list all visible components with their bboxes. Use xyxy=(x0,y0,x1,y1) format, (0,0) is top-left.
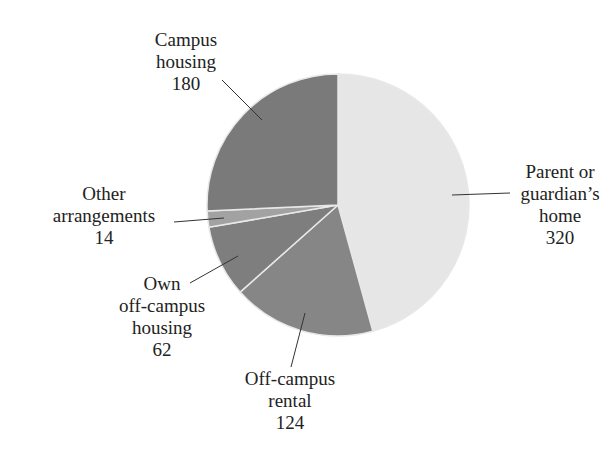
slice-label: Off-campusrental124 xyxy=(245,368,335,433)
slice-label: Campushousing180 xyxy=(155,29,217,94)
pie-slice-campus-housing xyxy=(207,74,338,211)
leader-line xyxy=(222,80,262,120)
slice-label: Parent orguardian’shome320 xyxy=(520,161,599,248)
slice-label: Ownoff-campushousing62 xyxy=(119,273,205,360)
pie-chart: Parent orguardian’shome320Off-campusrent… xyxy=(0,0,613,471)
pie-slices xyxy=(207,74,469,336)
slice-label: Otherarrangements14 xyxy=(53,183,155,248)
